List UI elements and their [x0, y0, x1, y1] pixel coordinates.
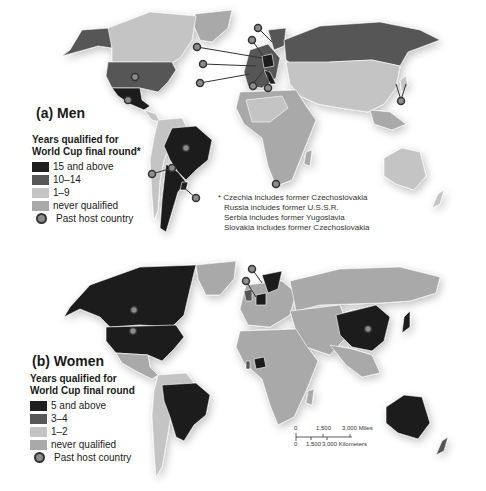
men-legend-item-high: 15 and above	[32, 160, 141, 173]
host-dot-icon	[34, 452, 45, 463]
women-legend-item-high: 5 and above	[30, 399, 135, 412]
women-legend-item-host: Past host country	[30, 451, 135, 464]
women-legend-heading: Years qualified for World Cup final roun…	[30, 373, 135, 397]
swatch-low	[32, 188, 49, 198]
swatch-mid	[32, 175, 49, 185]
swatch-high	[30, 401, 47, 411]
men-legend-item-host: Past host country	[32, 212, 141, 225]
scale-km-labels: 0 1,500 3,000 Kilometers	[294, 441, 297, 447]
new-zealand	[436, 437, 448, 455]
germany-uk	[256, 293, 266, 305]
women-legend-item-mid: 3–4	[30, 412, 135, 425]
nigeria	[254, 357, 266, 369]
scale-miles-labels: 0 1,500 3,000 Miles	[294, 425, 297, 431]
women-legend: Years qualified for World Cup final roun…	[30, 373, 135, 464]
brazil	[162, 383, 210, 441]
madagascar	[306, 389, 314, 405]
madagascar	[304, 150, 312, 166]
swatch-mid	[30, 414, 47, 424]
men-legend-heading: Years qualified for World Cup final roun…	[32, 134, 141, 158]
men-footnotes: * Czechia includes former Czechoslovakia…	[218, 193, 369, 233]
swatch-low	[30, 427, 47, 437]
women-map-title: (b) Women	[32, 353, 104, 369]
women-legend-item-never: never qualified	[30, 438, 135, 451]
men-legend-item-low: 1–9	[32, 186, 141, 199]
swatch-never	[32, 201, 49, 211]
women-legend-item-low: 1–2	[30, 425, 135, 438]
greenland	[194, 10, 232, 42]
alaska	[62, 28, 112, 56]
china	[336, 305, 390, 351]
men-legend-item-never: never qualified	[32, 199, 141, 212]
swatch-never	[30, 440, 47, 450]
women-map-panel: (b) Women Years qualified for World Cup …	[0, 245, 486, 491]
new-zealand	[432, 190, 444, 208]
southeast-asia	[370, 110, 406, 130]
australia	[386, 395, 430, 439]
canada	[64, 265, 196, 327]
japan	[402, 311, 410, 333]
russia	[290, 267, 440, 311]
usa	[106, 62, 176, 92]
men-legend: Years qualified for World Cup final roun…	[32, 134, 141, 225]
canada	[108, 12, 196, 64]
australia	[384, 148, 426, 190]
men-map-title: (a) Men	[36, 105, 85, 121]
host-dot-icon	[36, 213, 47, 224]
men-map-panel: (a) Men Years qualified for World Cup fi…	[0, 0, 486, 245]
central-america	[144, 110, 160, 122]
scale-bar	[296, 433, 352, 441]
greenland	[196, 261, 236, 295]
ghana	[246, 361, 250, 369]
swatch-high	[32, 162, 49, 172]
men-legend-item-mid: 10–14	[32, 173, 141, 186]
